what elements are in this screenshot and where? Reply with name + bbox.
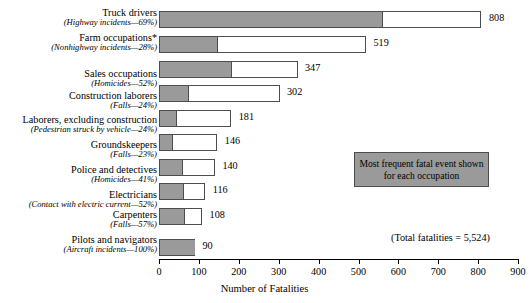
category-label-farm-occupations: Farm occupations* (Nonhighway incidents—… <box>0 33 157 52</box>
bar-total <box>159 239 195 256</box>
bar-total <box>159 134 217 151</box>
x-axis-tick-label: 400 <box>299 266 339 277</box>
category-subcaption: (Nonhighway incidents—28%) <box>0 43 157 52</box>
x-axis-tick <box>359 259 360 264</box>
x-axis-tick <box>478 259 479 264</box>
x-axis-tick-label: 700 <box>418 266 458 277</box>
total-fatalities-note: (Total fatalities = 5,524) <box>391 232 490 243</box>
x-axis-tick <box>159 259 160 264</box>
category-subcaption: (Contact with electric current—52%) <box>0 200 157 209</box>
category-label-laborers-excluding-construction: Laborers, excluding construction (Pedest… <box>0 115 157 134</box>
x-axis-tick-label: 900 <box>498 266 529 277</box>
x-axis-tick <box>279 259 280 264</box>
bar-shaded-segment <box>160 37 218 52</box>
bar-total <box>159 183 205 200</box>
x-axis-title: Number of Fatalities <box>0 283 529 294</box>
bar-value-label: 146 <box>225 135 240 146</box>
bar-shaded-segment <box>160 62 232 77</box>
x-axis-tick-label: 300 <box>259 266 299 277</box>
bar-shaded-segment <box>160 209 185 224</box>
bar-value-label: 302 <box>287 86 302 97</box>
bar-value-label: 116 <box>213 184 228 195</box>
plot-area: 808 519 347 302 181 <box>159 0 519 303</box>
bar-total <box>159 110 231 127</box>
bar-total <box>159 61 298 78</box>
category-label-construction-laborers: Construction laborers (Falls—24%) <box>0 91 157 110</box>
category-label-carpenters: Carpenters (Falls—57%) <box>0 210 157 229</box>
x-axis-tick-label: 100 <box>179 266 219 277</box>
x-axis-tick <box>518 259 519 264</box>
category-subcaption: (Falls—24%) <box>0 101 157 110</box>
bar-value-label: 90 <box>202 240 212 251</box>
bar-shaded-segment <box>160 160 183 175</box>
x-axis-tick <box>319 259 320 264</box>
x-axis-tick-label: 600 <box>378 266 418 277</box>
bar-shaded-segment <box>160 184 184 199</box>
category-subcaption: (Homicides—41%) <box>0 175 157 184</box>
fatalities-bar-chart: Truck drivers (Highway incidents—69%) Fa… <box>0 0 529 303</box>
x-axis-tick-label: 800 <box>458 266 498 277</box>
bar-total <box>159 85 280 102</box>
category-label-pilots-and-navigators: Pilots and navigators (Aircraft incident… <box>0 235 157 254</box>
bar-total <box>159 159 215 176</box>
x-axis-tick-label: 500 <box>339 266 379 277</box>
category-label-sales-occupations: Sales occupations (Homicides—52%) <box>0 69 157 88</box>
bar-total <box>159 36 366 53</box>
bar-value-label: 808 <box>489 12 504 23</box>
x-axis-tick <box>239 259 240 264</box>
bar-shaded-segment <box>160 111 177 126</box>
category-subcaption: (Homicides—52%) <box>0 79 157 88</box>
category-subcaption: (Pedestrian struck by vehicle—24%) <box>0 125 157 134</box>
bar-value-label: 181 <box>239 111 254 122</box>
category-subcaption: (Highway incidents—69%) <box>0 18 157 27</box>
bar-total <box>159 208 202 225</box>
bar-shaded-segment <box>160 135 173 150</box>
bar-value-label: 140 <box>222 160 237 171</box>
category-label-electricians: Electricians (Contact with electric curr… <box>0 190 157 209</box>
bar-shaded-segment <box>160 240 195 255</box>
legend-line-1: Most frequent fatal event shown <box>359 158 483 169</box>
category-subcaption: (Falls—23%) <box>0 150 157 159</box>
x-axis-tick <box>199 259 200 264</box>
bar-shaded-segment <box>160 86 189 101</box>
legend-annotation-box: Most frequent fatal event shown for each… <box>354 152 489 187</box>
x-axis-tick <box>438 259 439 264</box>
category-subcaption: (Aircraft incidents—100%) <box>0 245 157 254</box>
category-label-groundskeepers: Groundskeepers (Falls—23%) <box>0 140 157 159</box>
category-subcaption: (Falls—57%) <box>0 220 157 229</box>
category-label-police-and-detectives: Police and detectives (Homicides—41%) <box>0 165 157 184</box>
bar-value-label: 347 <box>305 62 320 73</box>
legend-line-2: for each occupation <box>384 170 460 181</box>
x-axis-tick-label: 200 <box>219 266 259 277</box>
x-axis-tick-label: 0 <box>139 266 179 277</box>
bar-value-label: 519 <box>374 37 389 48</box>
bar-total <box>159 11 481 28</box>
bar-shaded-segment <box>160 12 383 27</box>
x-axis-line <box>159 259 519 260</box>
category-label-truck-drivers: Truck drivers (Highway incidents—69%) <box>0 8 157 27</box>
x-axis-tick <box>398 259 399 264</box>
bar-value-label: 108 <box>210 209 225 220</box>
